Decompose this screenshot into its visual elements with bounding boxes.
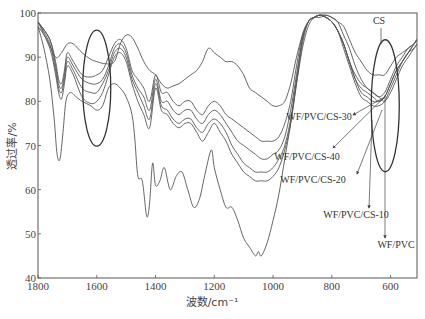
- series-line-wf-pvc-cs-30: [38, 15, 417, 141]
- annotation-label: WF/PVC/CS-20: [280, 174, 346, 185]
- y-tick-label: 100: [20, 7, 37, 19]
- x-tick-label: 1200: [203, 280, 226, 292]
- annotation-label: CS: [373, 15, 385, 26]
- y-tick-label: 50: [25, 228, 37, 240]
- x-tick-label: 1000: [262, 280, 285, 292]
- y-axis-title: 透过率/%: [5, 122, 19, 169]
- x-tick-label: 800: [324, 280, 341, 292]
- x-tick-label: 1400: [145, 280, 168, 292]
- y-tick-label: 40: [25, 272, 37, 284]
- annotation-label: WF/PVC: [377, 239, 415, 250]
- annotation-arrow: [369, 120, 372, 208]
- y-tick-label: 80: [25, 95, 37, 107]
- ftir-chart: 1800160014001200100080060040506070809010…: [0, 0, 425, 319]
- annotation-label: WF/PVC/CS-10: [323, 209, 389, 220]
- x-tick-label: 600: [382, 280, 399, 292]
- y-tick-label: 70: [25, 140, 37, 152]
- x-tick-label: 1600: [86, 280, 109, 292]
- highlight-ellipse-1600: [83, 30, 111, 146]
- series-line-cs: [38, 15, 417, 106]
- series-line-wf-pvc-cs-40: [38, 15, 417, 159]
- x-axis-title: 波数/cm⁻¹: [186, 296, 239, 309]
- y-tick-label: 90: [25, 51, 37, 63]
- annotation-label: WF/PVC/CS-30: [286, 111, 352, 122]
- series-line-wf-pvc-cs-10: [38, 15, 417, 181]
- y-tick-label: 60: [25, 184, 37, 196]
- annotation-label: WF/PVC/CS-40: [274, 151, 340, 162]
- series-line-wf-pvc-cs-20: [38, 15, 417, 172]
